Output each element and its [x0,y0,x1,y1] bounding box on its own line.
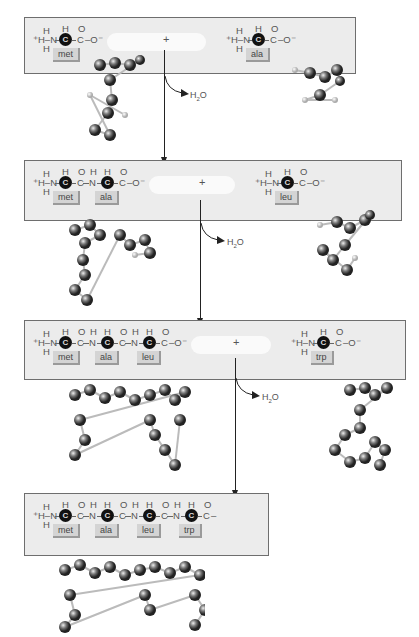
hydrogen-atom: H [43,520,50,530]
amide-hydrogen: H [174,500,181,510]
highlight-band [191,336,271,354]
hydrogen-atom: H [265,187,272,197]
alpha-carbon-icon: C [59,176,72,189]
water-byproduct-label: H2O [262,392,279,404]
carbonyl-oxygen: O [78,24,85,34]
bond-line [72,343,76,344]
residue-label-trp: trp [179,524,202,538]
hydrogen-atom: H [301,347,308,357]
tripeptide-molecule-model [55,380,215,480]
carbonyl-oxygen: O [120,167,127,177]
residue-label-met: met [53,191,80,205]
bond-line [72,40,76,41]
reaction-step-box-3: H⁺H–NHHCmetOCHNHCalaOCHNHCleuOC–O⁻+H⁺H–N… [24,320,406,380]
bond-line [156,516,160,517]
carbonyl-oxygen: O [120,500,127,510]
water-release-arrow-icon [235,378,265,403]
carbonyl-oxygen: O [271,24,278,34]
amide-nitrogen: N [89,338,96,348]
alpha-carbon-icon: C [143,336,156,349]
residue-label-trp: trp [311,351,334,365]
bond-line [198,516,202,517]
hydrogen-atom: H [43,187,50,197]
alpha-carbon-icon: C [317,336,330,349]
carbonyl-carbon: C [203,511,210,521]
terminal-bond: – [211,511,216,521]
carbonyl-carbon: C [77,35,84,45]
carbonyl-oxygen: O [300,167,307,177]
leu-molecule-model [305,210,419,310]
hydrogen-atom: H [236,44,243,54]
carboxylate-oxygen: –O⁻ [169,338,187,348]
highlight-band [107,33,206,51]
carbonyl-carbon: C [299,178,306,188]
residue-label-met: met [53,351,80,365]
amide-nitrogen: N [173,511,180,521]
plus-sign: + [233,336,239,348]
carbonyl-oxygen: O [78,500,85,510]
alpha-carbon-icon: C [101,336,114,349]
plus-sign: + [199,176,205,188]
residue-label-met: met [53,48,80,62]
bond-line [72,516,76,517]
carbonyl-oxygen: O [78,327,85,337]
residue-label-met: met [53,524,80,538]
bond-line [114,343,118,344]
residue-label-ala: ala [95,524,119,538]
alpha-carbon-icon: C [143,509,156,522]
met-ala-molecule-model [55,215,215,315]
residue-label-ala: ala [95,351,119,365]
carbonyl-oxygen: O [162,327,169,337]
carboxylate-oxygen: –O⁻ [307,178,325,188]
alpha-carbon-icon: C [59,509,72,522]
residue-label-leu: leu [137,524,161,538]
met-molecule-model [80,55,240,155]
amide-hydrogen: H [132,327,139,337]
trp-molecule-model [325,380,419,480]
plus-sign: + [163,33,169,45]
alpha-carbon-icon: C [101,176,114,189]
carboxylate-oxygen: –O⁻ [85,35,103,45]
residue-label-leu: leu [275,191,299,205]
amide-nitrogen: N [131,511,138,521]
bond-line [114,516,118,517]
carboxylate-oxygen: –O⁻ [278,35,296,45]
bond-line [114,183,118,184]
bond-line [72,183,76,184]
alpha-carbon-icon: C [185,509,198,522]
carbonyl-oxygen: O [204,500,211,510]
reaction-step-box-4: H⁺H–NHHCmetOCHNHCalaOCHNHCleuOCHNHCtrpOC… [24,493,269,556]
highlight-band [149,176,235,194]
carbonyl-oxygen: O [162,500,169,510]
carboxylate-oxygen: –O⁻ [343,338,361,348]
residue-label-ala: ala [95,191,119,205]
hydrogen-atom: H [43,44,50,54]
ala-molecule-model [280,55,419,155]
amide-nitrogen: N [89,511,96,521]
carbonyl-carbon: C [270,35,277,45]
amide-hydrogen: H [90,500,97,510]
carbonyl-carbon: C [119,178,126,188]
alpha-carbon-icon: C [281,176,294,189]
hydrogen-atom: H [43,347,50,357]
residue-label-ala: ala [246,48,270,62]
amide-hydrogen: H [90,167,97,177]
alpha-carbon-icon: C [59,33,72,46]
carboxylate-oxygen: –O⁻ [127,178,145,188]
water-byproduct-label: H2O [227,237,244,249]
bond-line [156,343,160,344]
alpha-carbon-icon: C [101,509,114,522]
carbonyl-oxygen: O [336,327,343,337]
tetrapeptide-molecule-model [45,555,205,637]
residue-label-leu: leu [137,351,161,365]
bond-line [294,183,298,184]
carbonyl-oxygen: O [120,327,127,337]
bond-line [265,40,269,41]
carbonyl-oxygen: O [78,167,85,177]
bond-line [330,343,334,344]
amide-hydrogen: H [90,327,97,337]
amide-hydrogen: H [132,500,139,510]
alpha-carbon-icon: C [59,336,72,349]
amide-nitrogen: N [89,178,96,188]
alpha-carbon-icon: C [252,33,265,46]
